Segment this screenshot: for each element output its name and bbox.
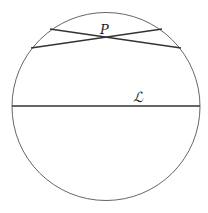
line-through-p-1 [50,29,181,48]
point-p-label: P [99,22,109,37]
line-through-p-2 [31,29,162,48]
line-l-label: ℒ [133,89,144,105]
diagram-canvas: P ℒ [0,0,208,213]
